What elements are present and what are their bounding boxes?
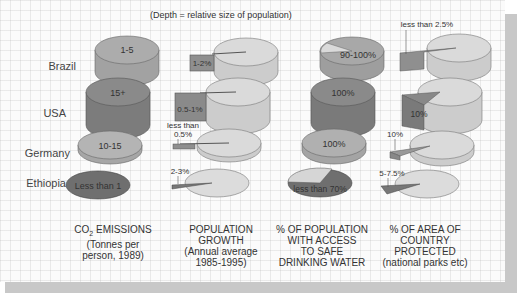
pop-germany-value-line2: 0.5% <box>174 130 192 139</box>
pop-usa-value: 0.5-1% <box>177 105 202 114</box>
paper-shadow-bottom <box>5 282 517 293</box>
co2-usa-cylinder: 15+ <box>86 78 150 139</box>
co2-germany-value: 10-15 <box>98 141 121 151</box>
caption-prot-line4: (national parks etc) <box>372 257 478 268</box>
caption-water-line2: WITH ACCESS <box>272 235 372 246</box>
pop-brazil-value: 1-2% <box>193 59 212 68</box>
caption-water-line1: % OF POPULATION <box>272 224 372 235</box>
water-brazil-cylinder: 90-100% <box>320 37 384 81</box>
prot-germany-disc: 10% <box>387 130 474 166</box>
prot-brazil-value: less than 2.5% <box>401 20 453 29</box>
caption-co2-line3: person, 1989) <box>58 250 168 261</box>
paper-shadow-right <box>505 14 517 286</box>
water-ethiopia-disc: less than 70% <box>288 168 352 197</box>
prot-germany-value: 10% <box>387 130 403 139</box>
water-brazil-value: 90-100% <box>340 50 376 60</box>
caption-water: % OF POPULATION WITH ACCESS TO SAFE DRIN… <box>272 224 372 268</box>
water-germany-value: 100% <box>322 139 345 149</box>
co2-brazil-value: 1-5 <box>120 45 133 55</box>
co2-usa-value: 15+ <box>110 88 125 98</box>
caption-water-line3: TO SAFE <box>272 246 372 257</box>
caption-pop-line3: (Annual average <box>176 246 266 257</box>
caption-co2: CO2 EMISSIONS (Tonnes per person, 1989) <box>58 224 168 261</box>
water-usa-value: 100% <box>331 88 354 98</box>
caption-water-line4: DRINKING WATER <box>272 257 372 268</box>
caption-co2-title-a: CO <box>74 224 89 235</box>
caption-prot-line3: PROTECTED <box>372 246 478 257</box>
prot-ethiopia-value: 5-7.5% <box>379 169 404 178</box>
caption-pop-growth: POPULATION GROWTH (Annual average 1985-1… <box>176 224 266 268</box>
caption-pop-line2: GROWTH <box>176 235 266 246</box>
water-germany-disc: 100% <box>302 129 366 164</box>
caption-co2-title-b: EMISSIONS <box>93 224 151 235</box>
caption-prot-line1: % OF AREA OF <box>372 224 478 235</box>
prot-ethiopia-disc: 5-7.5% <box>379 169 459 198</box>
pop-germany-value-line1: less than <box>167 121 199 130</box>
caption-protected: % OF AREA OF COUNTRY PROTECTED (national… <box>372 224 478 268</box>
pop-ethiopia-value: 2-3% <box>171 167 190 176</box>
prot-brazil-cylinder: less than 2.5% <box>400 20 491 81</box>
caption-pop-line4: 1985-1995) <box>176 257 266 268</box>
pie-matrix: 1-5 15+ 10-15 Less than 1 1-2% 0.5-1% le… <box>0 0 505 230</box>
co2-ethiopia-disc: Less than 1 <box>66 171 130 199</box>
prot-usa-value: 10% <box>410 109 427 119</box>
caption-prot-line2: COUNTRY <box>372 235 478 246</box>
prot-usa-cylinder: 10% <box>402 78 482 134</box>
co2-ethiopia-value: Less than 1 <box>75 181 122 191</box>
water-ethiopia-value: less than 70% <box>293 184 347 194</box>
caption-co2-line2: (Tonnes per <box>58 239 168 250</box>
caption-pop-line1: POPULATION <box>176 224 266 235</box>
co2-germany-cylinder: 10-15 <box>78 131 142 164</box>
water-usa-cylinder: 100% <box>311 78 375 137</box>
pop-ethiopia-disc: 2-3% <box>171 167 249 197</box>
